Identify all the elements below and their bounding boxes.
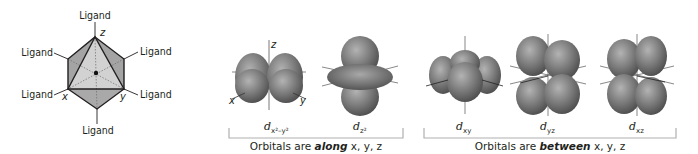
orbital-label-dz2: dz² <box>353 120 367 135</box>
orbital-dxy: dxy <box>426 36 503 135</box>
orbital-dyz: dyz <box>510 34 586 135</box>
bracket-along <box>229 128 403 138</box>
orbital-label-dyz: dyz <box>540 120 555 135</box>
orbital-dz2: dz² <box>322 36 398 135</box>
metal-center <box>94 71 98 75</box>
lobe-lower-right <box>635 77 667 115</box>
ligand-label-lower-left: Ligand <box>21 88 53 100</box>
axis-x-label: x <box>228 95 235 106</box>
orbital-dx2-y2: z x y dx²–y² <box>228 39 307 135</box>
lobe-upper-right <box>635 36 667 76</box>
lobe-front <box>447 62 483 102</box>
ligand-label-upper-right: Ligand <box>140 45 172 57</box>
axis-x-label: x <box>61 91 68 102</box>
ligand-label-lower-right: Ligand <box>140 88 172 100</box>
ligand-label-upper-left: Ligand <box>21 46 53 58</box>
face-bottom <box>68 89 124 109</box>
axis-z-label: z <box>270 39 277 50</box>
caption-between: Orbitals are between x, y, z <box>475 140 626 152</box>
brackets <box>229 128 676 138</box>
torus-ring <box>327 64 393 90</box>
lobe-lower-right <box>544 74 580 114</box>
octahedron-diagram: z x y Ligand Ligand Ligand Ligand Ligand… <box>21 9 171 136</box>
orbital-label-dx2-y2: dx²–y² <box>264 120 289 135</box>
orbital-label-dxz: dxz <box>629 120 644 135</box>
lobe-right-front <box>269 69 303 103</box>
axis-z-label: z <box>99 27 106 38</box>
orbital-dxz: dxz <box>600 34 674 135</box>
lobe-left-front <box>235 69 269 103</box>
caption-along: Orbitals are along x, y, z <box>250 140 383 152</box>
ligand-label-bottom: Ligand <box>82 124 114 136</box>
ligand-label-top: Ligand <box>79 9 111 21</box>
axis-y-label: y <box>299 95 307 106</box>
orbital-label-dxy: dxy <box>456 120 471 135</box>
axis-y-label: y <box>119 91 127 102</box>
